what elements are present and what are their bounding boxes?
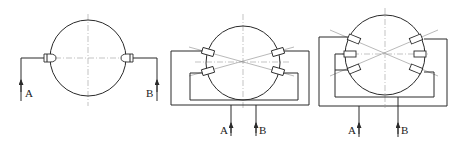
transducer-icon xyxy=(201,47,214,56)
transducer-icon xyxy=(271,47,284,56)
cable-b xyxy=(133,58,157,101)
transducer-icon xyxy=(344,51,356,57)
transducer-icon xyxy=(271,66,284,75)
label-b: B xyxy=(146,87,153,99)
transducer-icon xyxy=(347,34,360,44)
panel-triple-path: A B xyxy=(319,8,447,137)
transducer-icon xyxy=(44,54,56,62)
panel-dual-path: A B xyxy=(171,14,309,136)
label-a: A xyxy=(220,124,228,136)
label-b: B xyxy=(401,124,408,136)
label-b: B xyxy=(259,124,266,136)
cable-inner-loop xyxy=(190,73,298,100)
transducer-icon xyxy=(409,34,422,44)
transducer-icon xyxy=(201,66,214,75)
transducer-icon xyxy=(409,64,422,74)
transducer-icon xyxy=(347,64,360,74)
label-a: A xyxy=(348,124,356,136)
transducer-icon xyxy=(121,54,133,62)
panel-single-path: A B xyxy=(21,14,157,106)
cable-outer-loop xyxy=(171,51,309,105)
transducer-icon xyxy=(414,51,426,57)
label-a: A xyxy=(25,87,33,99)
diagram-canvas: A B A B xyxy=(0,0,463,147)
